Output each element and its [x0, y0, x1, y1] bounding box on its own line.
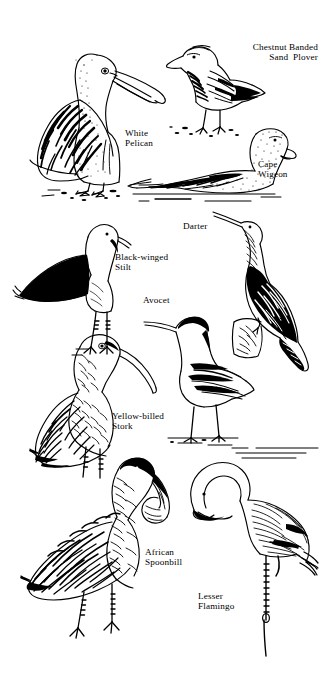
label-chestnut-banded-sand-plover: Chestnut Banded Sand Plover [206, 42, 318, 63]
illustration-lesser-flamingo [178, 448, 318, 663]
label-avocet: Avocet [143, 295, 170, 305]
pelican-eye [101, 68, 108, 74]
label-black-winged-stilt: Black-winged Stilt [115, 252, 168, 273]
label-yellow-billed-stork: Yellow-billed Stork [112, 411, 164, 432]
label-african-spoonbill: African Spoonbill [145, 547, 182, 568]
bird-identification-plate: White Pelican [0, 0, 323, 675]
label-lesser-flamingo: Lesser Flamingo [198, 591, 234, 612]
label-cape-wigeon: Cape Wigeon [258, 159, 288, 180]
label-darter: Darter [183, 221, 207, 231]
